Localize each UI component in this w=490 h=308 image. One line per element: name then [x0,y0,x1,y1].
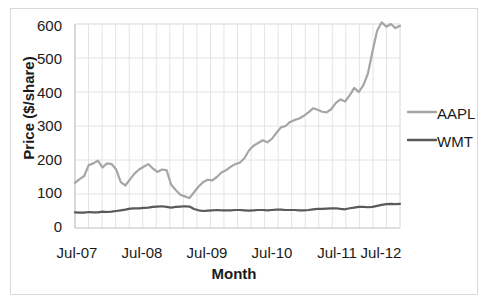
line-chart [0,0,490,308]
legend-label-wmt: WMT [437,133,473,150]
y-axis-title: Price ($/share) [20,18,37,198]
x-tick-label: Jul-07 [42,244,112,261]
y-tick-label: 0 [16,218,62,235]
x-tick-label: Jul-09 [172,244,242,261]
x-tick-label: Jul-10 [237,244,307,261]
legend-line-markers [408,112,436,140]
legend-label-aapl: AAPL [437,105,475,122]
x-tick-label: Jul-12 [346,244,416,261]
x-tick-label: Jul-08 [107,244,177,261]
chart-gridlines [75,24,400,228]
x-axis-title: Month [134,265,334,282]
